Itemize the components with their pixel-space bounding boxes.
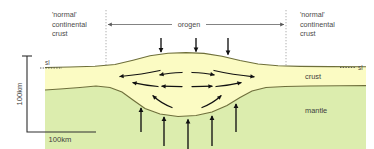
left-normal-crust-label-line2: continental: [52, 20, 87, 29]
left-normal-crust-label-line1: 'normal': [52, 10, 77, 19]
sea-level-left-label: sl: [45, 59, 50, 66]
mantle-label: mantle: [305, 106, 327, 115]
left-normal-crust-label-line3: crust: [52, 29, 68, 38]
orogen-label: orogen: [178, 20, 200, 29]
figure-root: orogen 'normal' continental crust 'norma…: [0, 0, 374, 149]
crust-label: crust: [305, 72, 321, 81]
right-normal-crust-label-line2: continental: [300, 20, 335, 29]
scale-vertical-label: 100km: [15, 83, 24, 106]
right-normal-crust-label-line3: crust: [300, 29, 316, 38]
orogen-cross-section-diagram: orogen 'normal' continental crust 'norma…: [0, 0, 374, 149]
scale-horizontal-label: 100km: [49, 135, 72, 144]
sea-level-right-label: sl: [358, 64, 363, 71]
right-normal-crust-label-line1: 'normal': [300, 10, 325, 19]
